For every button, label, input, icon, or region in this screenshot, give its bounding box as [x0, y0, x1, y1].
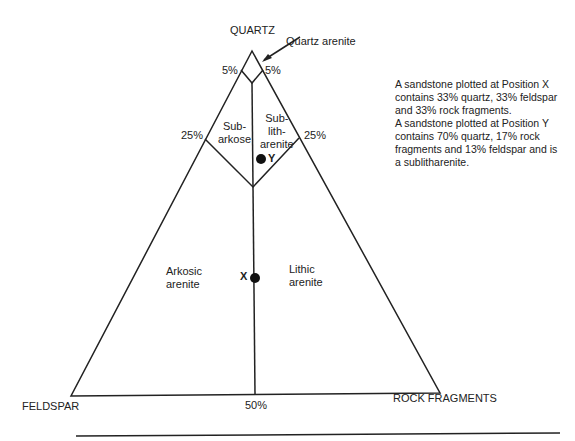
field-arkosic-arenite: Arkosic arenite [166, 265, 202, 291]
bottom-rule [76, 433, 560, 436]
center-line [252, 83, 255, 394]
quartz-arenite-boundary [241, 70, 263, 83]
field-lithic-arenite: Lithic arenite [289, 263, 323, 289]
quartz-arenite-callout: Quartz arenite [286, 35, 356, 48]
vertex-feldspar: FELDSPAR [22, 400, 79, 413]
point-x-label: X [240, 270, 247, 282]
ternary-diagram [0, 0, 575, 441]
field-subarkose: Sub- arkose [218, 120, 251, 146]
tick-25-left: 25% [181, 129, 203, 142]
field-sublitharenite: Sub- lith- arenite [260, 112, 294, 151]
explanation-note: A sandstone plotted at Position X contai… [395, 78, 575, 169]
vertex-rock-fragments: ROCK FRAGMENTS [393, 392, 497, 405]
point-x-marker [250, 273, 260, 283]
point-y-marker [256, 154, 266, 164]
vertex-quartz: QUARTZ [230, 24, 275, 37]
point-y-label: Y [268, 152, 275, 164]
tick-25-right: 25% [304, 129, 326, 142]
triangle-outline [71, 51, 440, 396]
tick-5-left: 5% [222, 64, 238, 77]
tick-5-right: 5% [265, 64, 281, 77]
tick-50-bottom: 50% [245, 399, 267, 412]
